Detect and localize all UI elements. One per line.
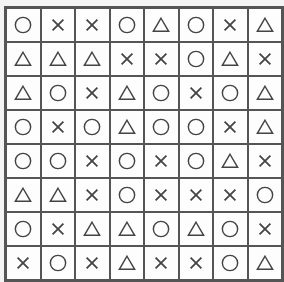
cell-r7-c8[interactable]	[248, 212, 283, 246]
cell-r6-c5[interactable]	[144, 178, 179, 212]
cell-r4-c1[interactable]	[6, 110, 41, 144]
cross-icon	[83, 84, 101, 102]
cell-r4-c2[interactable]	[41, 110, 76, 144]
cell-r3-c2[interactable]	[41, 76, 76, 110]
cross-icon	[187, 186, 205, 204]
cell-r1-c3[interactable]	[75, 8, 110, 42]
cell-r6-c3[interactable]	[75, 178, 110, 212]
cell-r1-c5[interactable]	[144, 8, 179, 42]
cell-r3-c5[interactable]	[144, 76, 179, 110]
cell-r2-c6[interactable]	[179, 42, 214, 76]
cell-r8-c5[interactable]	[144, 246, 179, 280]
cell-r8-c2[interactable]	[41, 246, 76, 280]
circle-icon	[221, 254, 239, 272]
circle-icon	[118, 186, 136, 204]
cell-r5-c5[interactable]	[144, 144, 179, 178]
cross-icon	[83, 152, 101, 170]
cell-r6-c1[interactable]	[6, 178, 41, 212]
cross-icon	[118, 50, 136, 68]
circle-icon	[152, 84, 170, 102]
cell-r6-c6[interactable]	[179, 178, 214, 212]
circle-icon	[187, 152, 205, 170]
cell-r7-c6[interactable]	[179, 212, 214, 246]
triangle-icon	[221, 50, 239, 68]
cell-r3-c8[interactable]	[248, 76, 283, 110]
cell-r3-c1[interactable]	[6, 76, 41, 110]
cell-r4-c6[interactable]	[179, 110, 214, 144]
cell-r7-c3[interactable]	[75, 212, 110, 246]
cross-icon	[256, 220, 274, 238]
cross-icon	[49, 16, 67, 34]
cross-icon	[152, 152, 170, 170]
cell-r8-c1[interactable]	[6, 246, 41, 280]
circle-icon	[118, 16, 136, 34]
cell-r5-c3[interactable]	[75, 144, 110, 178]
cell-r5-c7[interactable]	[213, 144, 248, 178]
cell-r1-c4[interactable]	[110, 8, 145, 42]
cell-r4-c7[interactable]	[213, 110, 248, 144]
cell-r8-c6[interactable]	[179, 246, 214, 280]
circle-icon	[14, 16, 32, 34]
cell-r2-c8[interactable]	[248, 42, 283, 76]
cell-r4-c8[interactable]	[248, 110, 283, 144]
cross-icon	[14, 254, 32, 272]
cell-r6-c8[interactable]	[248, 178, 283, 212]
cell-r2-c3[interactable]	[75, 42, 110, 76]
cell-r7-c5[interactable]	[144, 212, 179, 246]
triangle-icon	[83, 220, 101, 238]
cell-r7-c2[interactable]	[41, 212, 76, 246]
circle-icon	[187, 50, 205, 68]
triangle-icon	[118, 118, 136, 136]
cell-r1-c8[interactable]	[248, 8, 283, 42]
cell-r5-c2[interactable]	[41, 144, 76, 178]
cell-r7-c7[interactable]	[213, 212, 248, 246]
triangle-icon	[256, 16, 274, 34]
cell-r1-c2[interactable]	[41, 8, 76, 42]
cell-r5-c6[interactable]	[179, 144, 214, 178]
cross-icon	[256, 50, 274, 68]
cell-r3-c6[interactable]	[179, 76, 214, 110]
cell-r4-c3[interactable]	[75, 110, 110, 144]
cell-r6-c7[interactable]	[213, 178, 248, 212]
cross-icon	[187, 84, 205, 102]
cell-r2-c1[interactable]	[6, 42, 41, 76]
cross-icon	[152, 50, 170, 68]
cell-r5-c1[interactable]	[6, 144, 41, 178]
cell-r2-c7[interactable]	[213, 42, 248, 76]
cell-r7-c4[interactable]	[110, 212, 145, 246]
cell-r4-c5[interactable]	[144, 110, 179, 144]
cell-r3-c7[interactable]	[213, 76, 248, 110]
cell-r4-c4[interactable]	[110, 110, 145, 144]
circle-icon	[221, 84, 239, 102]
triangle-icon	[14, 50, 32, 68]
triangle-icon	[118, 254, 136, 272]
cell-r6-c2[interactable]	[41, 178, 76, 212]
circle-icon	[152, 118, 170, 136]
cell-r2-c5[interactable]	[144, 42, 179, 76]
cell-r8-c8[interactable]	[248, 246, 283, 280]
cell-r3-c4[interactable]	[110, 76, 145, 110]
cell-r5-c4[interactable]	[110, 144, 145, 178]
circle-icon	[187, 118, 205, 136]
triangle-icon	[152, 16, 170, 34]
cell-r1-c6[interactable]	[179, 8, 214, 42]
cell-r8-c4[interactable]	[110, 246, 145, 280]
triangle-icon	[118, 84, 136, 102]
cell-r2-c2[interactable]	[41, 42, 76, 76]
triangle-icon	[49, 50, 67, 68]
cell-r6-c4[interactable]	[110, 178, 145, 212]
cell-r1-c1[interactable]	[6, 8, 41, 42]
triangle-icon	[49, 186, 67, 204]
circle-icon	[14, 152, 32, 170]
circle-icon	[187, 16, 205, 34]
cross-icon	[221, 16, 239, 34]
cell-r1-c7[interactable]	[213, 8, 248, 42]
triangle-icon	[83, 50, 101, 68]
cell-r5-c8[interactable]	[248, 144, 283, 178]
cell-r3-c3[interactable]	[75, 76, 110, 110]
cell-r7-c1[interactable]	[6, 212, 41, 246]
cross-icon	[83, 16, 101, 34]
cell-r2-c4[interactable]	[110, 42, 145, 76]
cell-r8-c7[interactable]	[213, 246, 248, 280]
cell-r8-c3[interactable]	[75, 246, 110, 280]
